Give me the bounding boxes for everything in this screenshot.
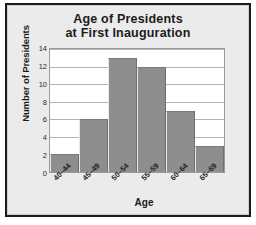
bar-cell	[108, 49, 137, 172]
chart-title-line-2: at First Inauguration	[7, 26, 249, 40]
bar	[108, 58, 137, 172]
y-axis-tick-label: 4	[25, 133, 47, 142]
y-axis-tick-label: 6	[25, 115, 47, 124]
y-axis-tick-label: 2	[25, 151, 47, 160]
bar-cell	[79, 49, 108, 172]
y-axis-tick-label: 8	[25, 97, 47, 106]
bar	[137, 67, 166, 172]
y-axis-tick-labels: 02468101214	[25, 48, 47, 173]
x-axis-title: Age	[49, 197, 239, 208]
chart-title-line-1: Age of Presidents	[73, 12, 183, 26]
chart-title: Age of Presidents at First Inauguration	[7, 12, 249, 40]
bar-series	[50, 49, 224, 172]
chart-figure: Age of Presidents at First Inauguration …	[5, 3, 251, 217]
bar-cell	[195, 49, 224, 172]
bar-cell	[50, 49, 79, 172]
bar-cell	[166, 49, 195, 172]
bar-cell	[137, 49, 166, 172]
y-axis-tick-label: 0	[25, 169, 47, 178]
y-axis-tick-label: 12	[25, 61, 47, 70]
y-axis-tick-label: 14	[25, 44, 47, 53]
y-axis-tick-label: 10	[25, 79, 47, 88]
plot-area	[49, 48, 225, 173]
